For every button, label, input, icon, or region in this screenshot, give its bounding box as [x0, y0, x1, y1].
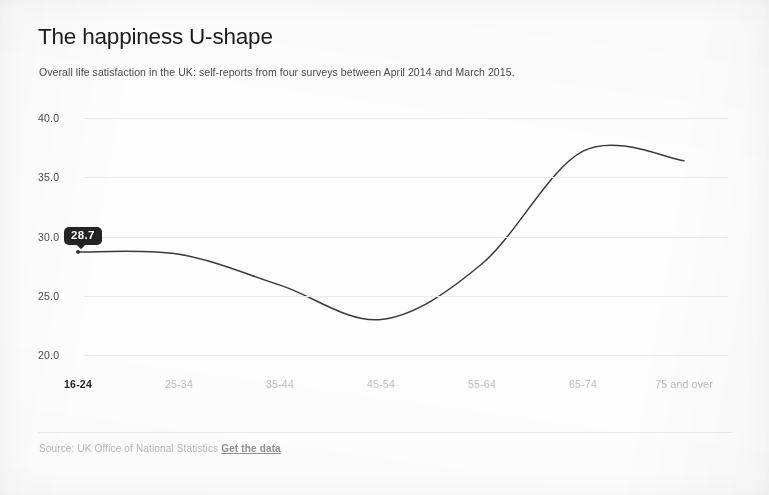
value-tooltip: 28.7: [64, 227, 102, 245]
line-series-svg: [38, 104, 728, 366]
x-axis-tick-65-74[interactable]: 65-74: [569, 378, 597, 390]
y-axis-tick-35: 35.0: [38, 171, 80, 183]
x-axis-tick-45-54[interactable]: 45-54: [367, 378, 395, 390]
x-axis-tick-55-64[interactable]: 55-64: [468, 378, 496, 390]
gridline-35: [84, 177, 728, 178]
series-start-point[interactable]: [76, 250, 80, 254]
x-axis-tick-16-24[interactable]: 16-24: [64, 378, 92, 390]
get-the-data-link[interactable]: Get the data: [221, 443, 281, 454]
chart-subtitle: Overall life satisfaction in the UK: sel…: [39, 66, 515, 78]
page-title: The happiness U-shape: [38, 24, 273, 50]
source-text: Source: UK Office of National Statistics: [39, 443, 218, 454]
x-axis-tick-35-44[interactable]: 35-44: [266, 378, 294, 390]
gridline-30: [84, 237, 728, 238]
x-axis-tick-25-34[interactable]: 25-34: [165, 378, 193, 390]
x-axis-tick-75-and-over[interactable]: 75 and over: [655, 378, 713, 390]
footer-divider: [38, 432, 732, 433]
y-axis-tick-20: 20.0: [38, 349, 80, 361]
gridline-40: [84, 118, 728, 119]
y-axis-tick-40: 40.0: [38, 112, 80, 124]
gridline-20: [84, 355, 728, 356]
gridline-25: [84, 296, 728, 297]
happiness-line: [78, 145, 684, 320]
plot-area: 28.7 40.035.030.025.020.0: [38, 104, 728, 366]
source-note: Source: UK Office of National Statistics…: [39, 443, 281, 454]
chart-page: The happiness U-shape Overall life satis…: [0, 0, 769, 495]
x-axis: 16-2425-3435-4445-5455-6465-7475 and ove…: [38, 378, 769, 394]
y-axis-tick-25: 25.0: [38, 290, 80, 302]
